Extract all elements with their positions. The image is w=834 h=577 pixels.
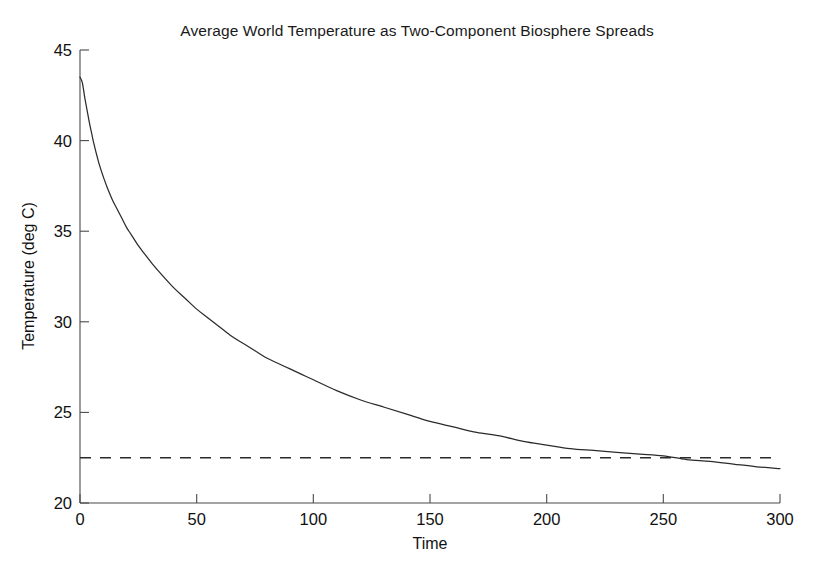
y-tick-label: 30	[54, 313, 72, 331]
y-axis-tick-labels: 20 25 30 35 40 45	[54, 41, 72, 512]
line-chart-plot: 20 25 30 35 40 45 0 50 100 150 200 250 3…	[0, 0, 834, 577]
y-tick-label: 40	[54, 132, 72, 150]
x-tick-label: 250	[650, 510, 678, 528]
y-tick-label: 25	[54, 403, 72, 421]
temperature-curve-series	[80, 77, 780, 468]
x-tick-label: 50	[188, 510, 206, 528]
x-tick-label: 150	[416, 510, 444, 528]
x-tick-label: 0	[75, 510, 84, 528]
x-tick-label: 100	[300, 510, 328, 528]
figure-canvas: Average World Temperature as Two-Compone…	[0, 0, 834, 577]
y-axis-title: Temperature (deg C)	[20, 202, 37, 350]
y-tick-label: 20	[54, 494, 72, 512]
y-tick-label: 45	[54, 41, 72, 59]
x-tick-label: 200	[533, 510, 561, 528]
x-axis-title: Time	[413, 535, 448, 552]
y-tick-label: 35	[54, 222, 72, 240]
x-axis-ticks	[80, 494, 780, 503]
y-axis-ticks	[80, 50, 89, 503]
x-axis-tick-labels: 0 50 100 150 200 250 300	[75, 510, 793, 528]
x-tick-label: 300	[766, 510, 794, 528]
